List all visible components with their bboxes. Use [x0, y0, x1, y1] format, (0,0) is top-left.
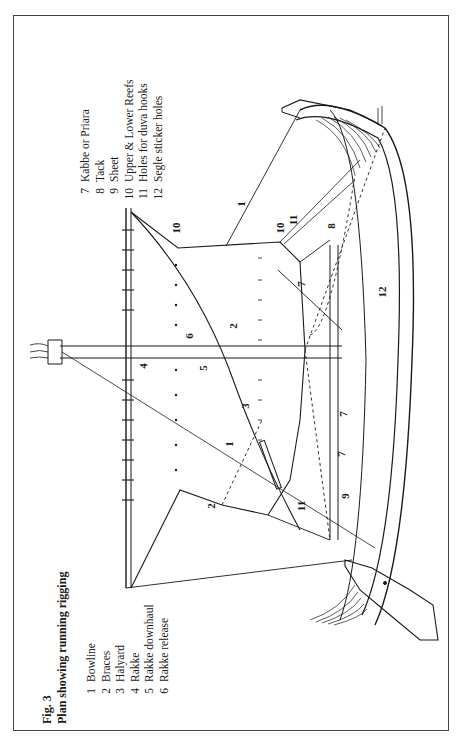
- sail: [131, 212, 305, 588]
- legend-number: 3: [113, 688, 128, 706]
- legend-item: 4Rakke: [128, 604, 143, 706]
- legend-number: 1: [84, 688, 99, 706]
- callout-tack: 8: [325, 223, 337, 229]
- legend-number: 11: [136, 188, 151, 206]
- legend-number: 6: [157, 688, 172, 706]
- figure-title: Plan showing running rigging: [55, 572, 70, 724]
- legend-label: Sheet: [108, 156, 120, 182]
- legend-number: 12: [151, 188, 166, 206]
- legend-label: Tack: [94, 160, 106, 182]
- legend-number: 5: [142, 688, 157, 706]
- legend-number: 10: [122, 188, 137, 206]
- legend-number: 4: [128, 688, 143, 706]
- callout-braces: 2: [205, 503, 217, 509]
- callout-braces: 2: [227, 323, 239, 329]
- legend-item: 10Upper & Lower Reefs: [122, 79, 137, 206]
- legend-label: Segle sticker holes: [152, 96, 164, 182]
- callout-rakke-release: 6: [183, 333, 195, 339]
- callout-rakke-downhaul: 5: [197, 365, 209, 371]
- callout-reefs: 10: [274, 223, 286, 234]
- callout-bowline: 1: [235, 201, 247, 207]
- legend-item: 9Sheet: [107, 79, 122, 206]
- legend-number: 2: [99, 688, 114, 706]
- legend-item: 11Holes for duva hooks: [136, 79, 151, 206]
- legend-label: Braces: [100, 651, 112, 682]
- legend-label: Upper & Lower Reefs: [123, 79, 135, 182]
- legend-item: 5Rakke downhaul: [142, 604, 157, 706]
- legend-item: 2Braces: [99, 604, 114, 706]
- callout-reefs: 10: [170, 223, 182, 234]
- legend-item: 1Bowline: [84, 604, 99, 706]
- legend-label: Holes for duva hooks: [137, 83, 149, 182]
- legend-item: 12Segle sticker holes: [151, 79, 166, 206]
- legend-label: Kabbe or Priara: [79, 109, 91, 182]
- legend-item: 6Rakke release: [157, 604, 172, 706]
- callout-kabbe: 7: [295, 281, 307, 287]
- callout-duva-holes: 11: [295, 501, 307, 511]
- legend-item: 8Tack: [93, 79, 108, 206]
- callout-halyard: 3: [239, 403, 251, 409]
- legend-number: 9: [107, 188, 122, 206]
- artist-signature: [378, 106, 382, 125]
- legend-item: 7Kabbe or Priara: [78, 79, 93, 206]
- legend-number: 7: [78, 188, 93, 206]
- legend-right: 7Kabbe or Priara 8Tack 9Sheet 10Upper & …: [78, 79, 165, 206]
- callout-bowline: 1: [223, 441, 235, 447]
- callout-duva-holes: 11: [287, 215, 299, 225]
- callout-sheet: 9: [339, 493, 351, 499]
- legend-label: Rakke release: [158, 618, 170, 682]
- legend-label: Bowline: [85, 643, 97, 682]
- legend-label: Rakke downhaul: [143, 604, 155, 682]
- figure-number: Fig. 3: [40, 695, 55, 724]
- legend-item: 3Halyard: [113, 604, 128, 706]
- legend-left: 1Bowline 2Braces 3Halyard 4Rakke 5Rakke …: [84, 604, 171, 706]
- legend-label: Rakke: [129, 653, 141, 682]
- callout-rakke: 4: [137, 363, 149, 369]
- callout-kabbe: 7: [337, 411, 349, 417]
- callout-sticker-holes: 12: [376, 287, 388, 298]
- yard: [122, 208, 134, 588]
- callout-kabbe: 7: [335, 451, 347, 457]
- hull: [282, 100, 438, 640]
- legend-number: 8: [93, 188, 108, 206]
- mast: [30, 340, 342, 364]
- legend-label: Halyard: [114, 645, 126, 682]
